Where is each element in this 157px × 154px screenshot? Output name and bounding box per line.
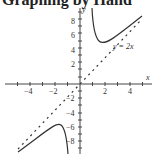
y-axis-label: y	[81, 5, 86, 14]
curve-left-branch	[18, 124, 68, 154]
y-tick-label: 4	[71, 46, 75, 55]
y-tick-label: 6	[71, 31, 75, 40]
asymptote-label: y = 2x	[112, 42, 134, 51]
y-tick-label: 2	[71, 60, 75, 69]
y-tick-label: −6	[66, 123, 75, 132]
curve-right-branch	[92, 8, 142, 43]
y-tick-label: 8	[71, 17, 75, 26]
y-tick-label: −4	[66, 109, 75, 118]
x-tick-label: −2	[49, 87, 58, 96]
y-tick-label: −2	[66, 94, 75, 103]
x-tick-label: 2	[103, 87, 107, 96]
x-tick-label: 4	[128, 87, 132, 96]
x-tick-label: −4	[24, 87, 33, 96]
x-axis-label: x	[145, 73, 150, 82]
chart: −4 −2 2 4 8 6 4 2 −2 −4 −6 −8 y x y = 2x	[0, 0, 157, 154]
